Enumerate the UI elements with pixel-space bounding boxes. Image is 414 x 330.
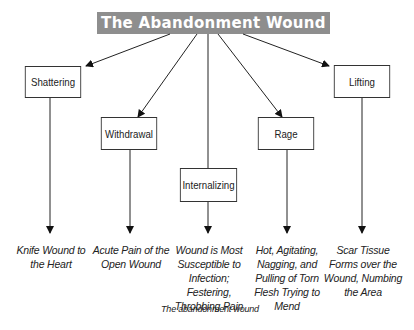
node-rage: Rage (258, 117, 314, 150)
arrow-to-withdrawal (138, 34, 197, 117)
node-label: Rage (274, 128, 297, 140)
arrow-to-rage (218, 34, 282, 117)
node-internalizing: Internalizing (180, 168, 237, 202)
arrow-to-shattering (86, 34, 170, 66)
node-label: Withdrawal (105, 128, 153, 140)
outcome-rage: Hot, Agitating, Nagging, and Pulling of … (246, 243, 328, 313)
node-label: Shattering (31, 76, 75, 88)
node-shattering: Shattering (25, 66, 81, 98)
outcome-internalizing: Wound is Most Susceptible to Infection; … (168, 243, 250, 313)
node-withdrawal: Withdrawal (101, 117, 157, 150)
node-lifting: Lifting (334, 65, 390, 98)
figure-caption: The abandonment wound (160, 304, 260, 314)
outcome-withdrawal: Acute Pain of the Open Wound (92, 243, 170, 271)
arrow-to-lifting (243, 34, 329, 66)
node-label: Internalizing (182, 179, 234, 191)
outcome-shattering: Knife Wound to the Heart (10, 243, 92, 271)
outcome-lifting: Scar Tissue Forms over the Wound, Numbin… (322, 243, 404, 299)
node-label: Lifting (349, 76, 375, 88)
